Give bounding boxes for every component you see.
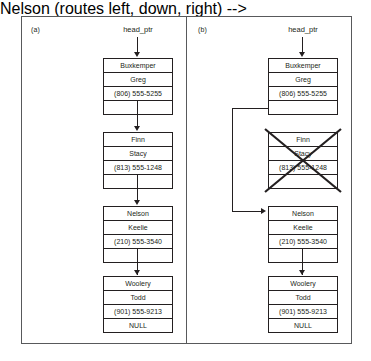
node-phone: (901) 555-9213: [269, 305, 337, 319]
node-first-name: Stacy: [269, 147, 337, 161]
node-phone: (806) 555-5255: [104, 87, 172, 101]
panel-b-node-woolery: Woolery Todd (901) 555-9213 NULL: [268, 276, 338, 333]
panel-b-node-finn-deleted: Finn Stacy (813) 555-1248: [268, 132, 338, 189]
node-last-name: Woolery: [269, 277, 337, 291]
node-last-name: Finn: [269, 133, 337, 147]
node-next-pointer: [104, 101, 172, 114]
node-last-name: Buxkemper: [269, 59, 337, 73]
node-next-pointer: [104, 175, 172, 188]
node-phone: (210) 555-3540: [104, 235, 172, 249]
panel-a-node-woolery: Woolery Todd (901) 555-9213 NULL: [103, 276, 173, 333]
panel-b-bypass-segment-top: [232, 108, 269, 109]
panel-b-bypass-arrowhead: [261, 208, 266, 214]
node-last-name: Buxkemper: [104, 59, 172, 73]
node-next-pointer: [269, 249, 337, 262]
node-first-name: Stacy: [104, 147, 172, 161]
panel-b-label: (b): [198, 26, 207, 33]
node-next-pointer: [269, 175, 337, 188]
node-first-name: Greg: [104, 73, 172, 87]
panel-a-link-3-arrowhead: [134, 270, 140, 275]
node-last-name: Finn: [104, 133, 172, 147]
node-last-name: Nelson: [269, 207, 337, 221]
node-first-name: Greg: [269, 73, 337, 87]
panel-b-head-arrow-shaft: [302, 37, 303, 53]
panel-b-node-nelson: Nelson Keelie (210) 555-3540: [268, 206, 338, 263]
panel-divider: [186, 17, 187, 343]
panel-b-bypass-segment-left: [232, 108, 233, 211]
panel-a-node-nelson: Nelson Keelie (210) 555-3540: [103, 206, 173, 263]
node-next-pointer: [104, 249, 172, 262]
panel-b-head-pointer-label: head_ptr: [272, 25, 334, 34]
node-phone: (813) 555-1248: [269, 161, 337, 175]
node-next-pointer: NULL: [104, 319, 172, 332]
node-phone: (901) 555-9213: [104, 305, 172, 319]
panel-a-node-finn: Finn Stacy (813) 555-1248: [103, 132, 173, 189]
node-first-name: Keelie: [104, 221, 172, 235]
panel-a-head-pointer-label: head_ptr: [107, 25, 169, 34]
node-phone: (210) 555-3540: [269, 235, 337, 249]
node-first-name: Todd: [104, 291, 172, 305]
node-first-name: Todd: [269, 291, 337, 305]
panel-a-link-2-shaft: [137, 175, 138, 201]
panel-b-node-buxkemper: Buxkemper Greg (806) 555-5255: [268, 58, 338, 115]
panel-b-head-arrowhead: [299, 52, 305, 57]
node-first-name: Keelie: [269, 221, 337, 235]
linked-list-figure: (a) head_ptr Buxkemper Greg (806) 555-52…: [0, 0, 371, 361]
node-last-name: Nelson: [104, 207, 172, 221]
node-next-pointer: [269, 101, 337, 114]
node-phone: (806) 555-5255: [269, 87, 337, 101]
node-next-pointer: NULL: [269, 319, 337, 332]
panel-a-link-1-shaft: [137, 101, 138, 127]
node-last-name: Woolery: [104, 277, 172, 291]
panel-b-bypass-segment-bottom: [232, 211, 262, 212]
panel-b-link-3-arrowhead: [299, 270, 305, 275]
panel-a-link-1-arrowhead: [134, 126, 140, 131]
panel-a-link-2-arrowhead: [134, 200, 140, 205]
node-phone: (813) 555-1248: [104, 161, 172, 175]
panel-a-head-arrowhead: [134, 52, 140, 57]
panel-a-node-buxkemper: Buxkemper Greg (806) 555-5255: [103, 58, 173, 115]
panel-a-label: (a): [31, 26, 40, 33]
panel-a-head-arrow-shaft: [137, 37, 138, 53]
